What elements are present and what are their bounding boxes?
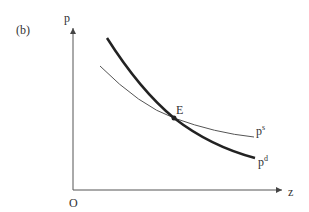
demand-label-sup: d xyxy=(264,154,268,163)
supply-label-sup: s xyxy=(262,123,265,132)
demand-curve xyxy=(107,38,255,158)
demand-label: pd xyxy=(258,155,268,168)
supply-curve xyxy=(100,66,254,137)
supply-label: ps xyxy=(256,124,265,137)
equilibrium-label: E xyxy=(176,104,183,116)
y-axis-label: p xyxy=(64,12,70,24)
diagram-canvas: (b) p z O E ps pd xyxy=(0,0,309,212)
panel-label: (b) xyxy=(16,24,30,36)
origin-label: O xyxy=(69,197,78,209)
diagram-svg xyxy=(0,0,309,212)
x-axis-label: z xyxy=(288,186,293,198)
